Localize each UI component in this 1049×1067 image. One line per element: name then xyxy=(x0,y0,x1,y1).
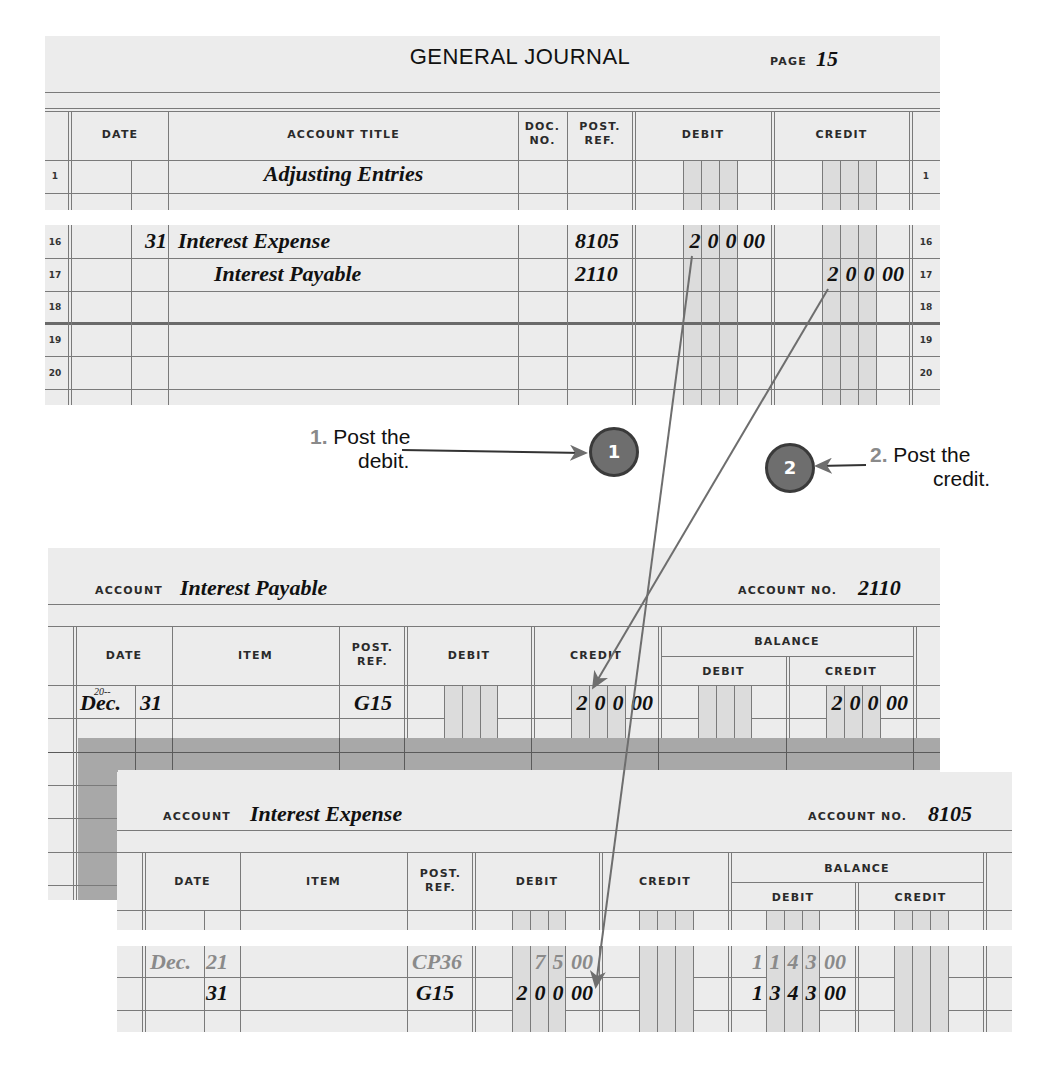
posting-arrows xyxy=(0,0,1049,1067)
step-2-pointer-arrow xyxy=(818,465,866,466)
debit-posting-arrow xyxy=(596,256,692,985)
step-1-pointer-arrow xyxy=(402,450,584,453)
credit-posting-arrow xyxy=(594,289,828,686)
